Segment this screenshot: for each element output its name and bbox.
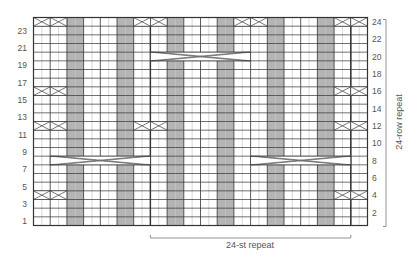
row-number: 1 xyxy=(22,216,27,226)
row-number: 14 xyxy=(372,104,382,114)
left-row-numbers: 1357911131517192123 xyxy=(18,26,28,227)
right-row-numbers: 24681012141618202224 xyxy=(372,17,382,218)
row-number: 20 xyxy=(372,52,382,62)
grid-lines xyxy=(34,18,368,226)
row-number: 8 xyxy=(372,156,377,166)
row-repeat-bracket xyxy=(383,20,386,227)
stitch-repeat-bracket xyxy=(150,235,350,238)
knitting-chart: 1357911131517192123 24681012141618202224… xyxy=(0,0,420,270)
row-number: 12 xyxy=(372,121,382,131)
row-number: 11 xyxy=(18,130,27,140)
row-number: 16 xyxy=(372,86,382,96)
row-number: 23 xyxy=(18,26,28,36)
row-number: 18 xyxy=(372,69,382,79)
row-number: 21 xyxy=(18,43,28,53)
row-number: 22 xyxy=(372,34,382,44)
row-repeat-label: 24-row repeat xyxy=(394,94,404,150)
row-number: 6 xyxy=(372,173,377,183)
row-number: 3 xyxy=(22,199,27,209)
row-number: 2 xyxy=(372,208,377,218)
row-number: 5 xyxy=(22,182,27,192)
row-number: 10 xyxy=(372,138,382,148)
row-number: 7 xyxy=(22,164,27,174)
stitch-repeat-label: 24-st repeat xyxy=(226,240,275,250)
row-number: 24 xyxy=(372,17,382,27)
row-number: 9 xyxy=(22,147,27,157)
row-number: 4 xyxy=(372,190,377,200)
row-number: 13 xyxy=(18,112,28,122)
row-number: 19 xyxy=(18,60,28,70)
row-number: 15 xyxy=(18,95,28,105)
row-number: 17 xyxy=(18,78,28,88)
